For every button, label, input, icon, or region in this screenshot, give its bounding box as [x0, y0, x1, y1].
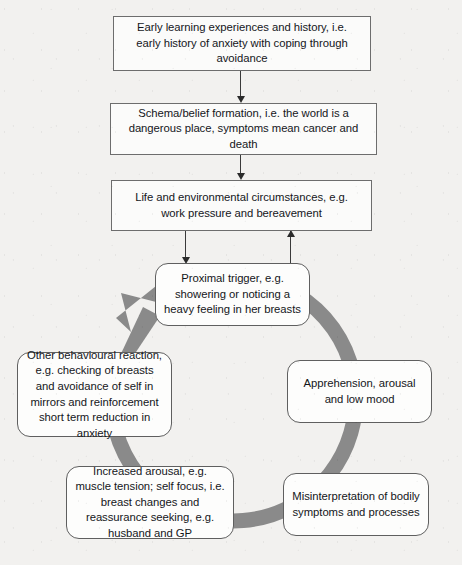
- box-early-learning: Early learning experiences and history, …: [113, 16, 371, 71]
- connector-shaft: [240, 155, 241, 174]
- node-increased-arousal-text: Increased arousal, e.g. muscle tension; …: [67, 464, 233, 542]
- node-misinterpretation-text: Misinterpretation of bodily symptoms and…: [284, 489, 428, 520]
- box-life-circumstances: Life and environmental circumstances, e.…: [111, 180, 372, 231]
- connector-shaft: [240, 71, 241, 97]
- node-misinterpretation: Misinterpretation of bodily symptoms and…: [283, 473, 429, 536]
- node-apprehension: Apprehension, arousal and low mood: [287, 360, 432, 423]
- diagram-canvas: Early learning experiences and history, …: [0, 0, 462, 565]
- node-increased-arousal: Increased arousal, e.g. muscle tension; …: [66, 466, 234, 539]
- arrowhead-down-icon: [237, 173, 245, 180]
- arrowhead-up-icon: [287, 230, 295, 237]
- node-other-behavioural-reaction-text: Other behavioural reaction, e.g. checkin…: [18, 348, 171, 442]
- box-schema-belief: Schema/belief formation, i.e. the world …: [110, 103, 377, 155]
- node-apprehension-text: Apprehension, arousal and low mood: [288, 376, 431, 407]
- box-life-circumstances-text: Life and environmental circumstances, e.…: [112, 190, 371, 221]
- box-schema-belief-text: Schema/belief formation, i.e. the world …: [111, 106, 376, 153]
- node-proximal-trigger-text: Proximal trigger, e.g. showering or noti…: [156, 271, 309, 318]
- node-proximal-trigger: Proximal trigger, e.g. showering or noti…: [155, 263, 310, 326]
- connector-shaft: [185, 231, 186, 258]
- node-other-behavioural-reaction: Other behavioural reaction, e.g. checkin…: [17, 352, 172, 437]
- box-early-learning-text: Early learning experiences and history, …: [114, 20, 370, 67]
- arrowhead-down-icon: [237, 96, 245, 103]
